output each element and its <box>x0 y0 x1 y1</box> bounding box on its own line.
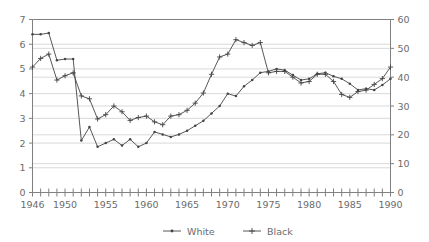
y2-tick-label: 60 <box>398 14 410 25</box>
data-point-marker <box>381 84 384 87</box>
data-point-marker <box>373 89 376 92</box>
y2-tick-label: 40 <box>398 72 410 83</box>
y-tick-label: 7 <box>19 14 25 25</box>
data-point-marker <box>96 146 99 149</box>
y-tick-label: 4 <box>19 88 25 99</box>
data-point-marker <box>251 79 254 82</box>
x-tick-label: 1955 <box>94 199 118 210</box>
data-point-marker <box>145 142 148 145</box>
data-point-marker <box>64 58 67 61</box>
data-point-marker <box>129 138 132 141</box>
y2-tick-label: 50 <box>398 43 410 54</box>
legend-marker-dot-icon <box>171 230 174 233</box>
line-chart: 1946195019551960196519701975198019851990… <box>0 0 429 242</box>
data-point-marker <box>340 78 343 81</box>
data-point-marker <box>186 129 189 132</box>
data-point-marker <box>48 32 51 35</box>
y-tick-label: 2 <box>19 138 25 149</box>
data-point-marker <box>31 33 34 36</box>
y2-tick-label: 0 <box>398 187 404 198</box>
y2-tick-label: 20 <box>398 129 410 140</box>
data-point-marker <box>88 126 91 129</box>
data-point-marker <box>235 95 238 98</box>
y2-tick-label: 30 <box>398 101 410 112</box>
legend-label: White <box>187 226 215 237</box>
y2-tick-label: 10 <box>398 158 410 169</box>
data-point-marker <box>137 146 140 149</box>
y-tick-label: 3 <box>19 113 25 124</box>
data-point-marker <box>194 125 197 128</box>
x-tick-label: 1946 <box>20 199 44 210</box>
data-point-marker <box>389 78 392 81</box>
y-tick-label: 1 <box>19 162 25 173</box>
y-tick-label: 0 <box>19 187 25 198</box>
data-point-marker <box>210 112 213 115</box>
data-point-marker <box>39 33 42 36</box>
data-point-marker <box>56 59 59 62</box>
legend-label: Black <box>267 226 293 237</box>
y-tick-label: 6 <box>19 39 25 50</box>
data-point-marker <box>178 133 181 136</box>
data-point-marker <box>243 85 246 88</box>
x-tick-label: 1950 <box>53 199 77 210</box>
data-point-marker <box>80 139 83 142</box>
data-point-marker <box>349 83 352 86</box>
data-point-marker <box>121 144 124 147</box>
x-tick-label: 1985 <box>338 199 362 210</box>
x-tick-label: 1970 <box>216 199 240 210</box>
data-point-marker <box>161 133 164 136</box>
data-point-marker <box>104 142 107 145</box>
x-tick-label: 1975 <box>256 199 280 210</box>
data-point-marker <box>218 105 221 108</box>
data-point-marker <box>153 131 156 134</box>
data-point-marker <box>227 92 230 95</box>
data-point-marker <box>170 136 173 139</box>
data-point-marker <box>113 138 116 141</box>
x-tick-label: 1980 <box>297 199 321 210</box>
y-tick-label: 5 <box>19 63 25 74</box>
data-point-marker <box>202 120 205 123</box>
x-tick-label: 1990 <box>378 199 402 210</box>
data-point-marker <box>72 58 75 61</box>
data-point-marker <box>259 71 262 74</box>
x-tick-label: 1965 <box>175 199 199 210</box>
data-point-marker <box>332 75 335 78</box>
chart-container: 1946195019551960196519701975198019851990… <box>0 0 429 242</box>
x-tick-label: 1960 <box>134 199 158 210</box>
